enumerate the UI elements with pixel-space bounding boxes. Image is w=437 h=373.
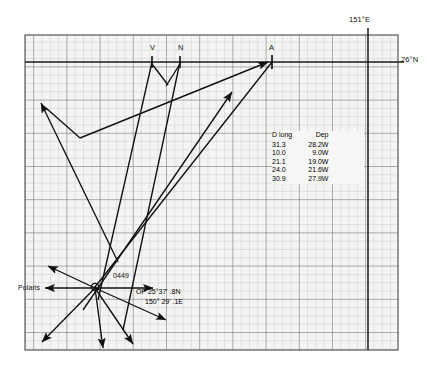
observed-position-block: OP 25°37' .8N 150° 29' .1E (136, 287, 183, 307)
plot-canvas (0, 0, 437, 373)
cell-dlong: 30.9 (272, 175, 292, 184)
star-label-v: V (150, 44, 155, 52)
meridian-label: 151°E (349, 16, 370, 24)
cell-dep: 21.6W (292, 166, 328, 175)
table-row: 24.0 21.6W (272, 166, 328, 175)
column-header-dlong: D long (272, 131, 292, 141)
star-label-n: N (178, 44, 184, 52)
table-row: 21.1 19.0W (272, 158, 328, 167)
cell-dlong: 24.0 (272, 166, 292, 175)
table-header-row: D long Dep (272, 131, 328, 141)
observed-position-lon: 150° 29' .1E (136, 297, 183, 307)
cell-dlong: 31.3 (272, 141, 292, 150)
star-label-a: A (269, 44, 274, 52)
parallel-label: 26°N (401, 56, 418, 64)
cell-dep: 27.9W (292, 175, 328, 184)
table-row: 10.0 9.0W (272, 149, 328, 158)
cell-dep: 19.0W (292, 158, 328, 167)
cell-dlong: 10.0 (272, 149, 292, 158)
table-row: 31.3 28.2W (272, 141, 328, 150)
table: D long Dep 31.3 28.2W 10.0 9.0W 21.1 19.… (272, 131, 328, 184)
cell-dlong: 21.1 (272, 158, 292, 167)
time-label: 0449 (113, 272, 129, 280)
observed-position-lat: OP 25°37' .8N (136, 288, 180, 295)
cell-dep: 9.0W (292, 149, 328, 158)
plotting-sheet: 151°E 26°N V N A Polaris 0449 OP 25°37' … (0, 0, 437, 373)
cell-dep: 28.2W (292, 141, 328, 150)
dlong-dep-table: D long Dep 31.3 28.2W 10.0 9.0W 21.1 19.… (272, 131, 364, 184)
polaris-label: Polaris (18, 284, 40, 292)
table-row: 30.9 27.9W (272, 175, 328, 184)
column-header-dep: Dep (292, 131, 328, 141)
